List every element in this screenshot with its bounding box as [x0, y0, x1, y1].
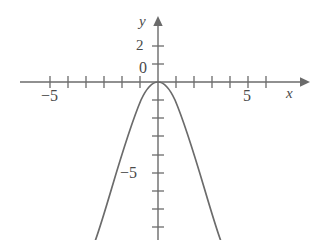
x-tick-label-5: 5 [243, 88, 251, 103]
x-axis-arrowhead [300, 77, 310, 87]
y-tick-label-2: 2 [136, 38, 144, 53]
parabola-graph-figure: y x 2 0 −5 5 −5 [0, 0, 323, 240]
coordinate-plane-svg [0, 0, 323, 240]
origin-label: 0 [139, 60, 147, 75]
x-axis-label: x [286, 86, 293, 101]
y-axis-arrowhead [153, 16, 162, 26]
y-axis-label: y [139, 14, 146, 29]
x-tick-label-minus-5: −5 [41, 88, 58, 103]
y-tick-label-minus-5: −5 [120, 165, 137, 180]
